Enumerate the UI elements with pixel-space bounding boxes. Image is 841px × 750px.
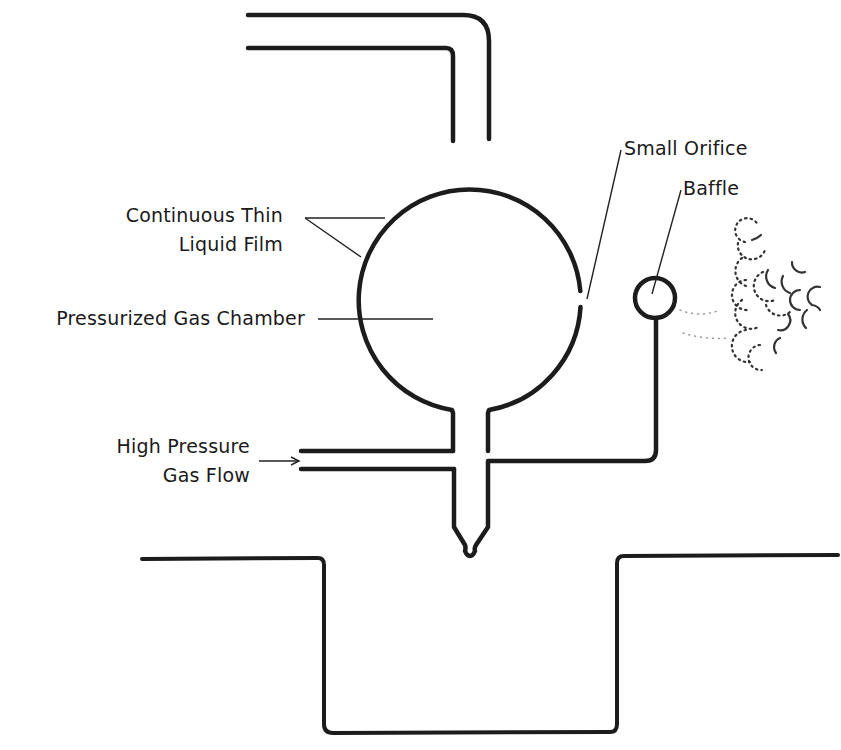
liquid-trough xyxy=(142,555,838,733)
leader-lines xyxy=(259,150,681,465)
label-film-line1: Continuous Thin xyxy=(126,204,283,226)
label-gas-line1: High Pressure xyxy=(117,435,250,457)
nozzle xyxy=(454,462,488,556)
droplet-bubbles xyxy=(732,218,820,370)
pressurized-gas-chamber xyxy=(359,189,581,451)
top-inlet-pipe xyxy=(248,15,489,141)
label-gas-line2: Gas Flow xyxy=(163,464,250,486)
label-orifice: Small Orifice xyxy=(624,137,748,159)
label-baffle: Baffle xyxy=(683,177,739,199)
label-chamber: Pressurized Gas Chamber xyxy=(56,307,305,329)
diagram-canvas: Continuous Thin Liquid Film Pressurized … xyxy=(0,0,841,750)
spray-dots xyxy=(680,310,730,338)
label-film-line2: Liquid Film xyxy=(179,233,283,255)
labels: Continuous Thin Liquid Film Pressurized … xyxy=(56,137,747,486)
high-pressure-gas-inlet xyxy=(301,451,454,469)
